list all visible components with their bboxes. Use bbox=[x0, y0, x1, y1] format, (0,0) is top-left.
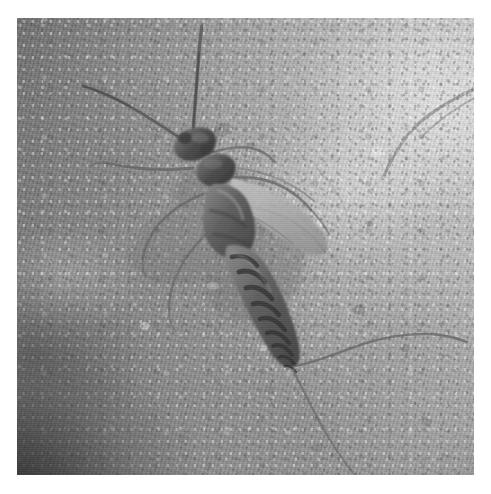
photograph bbox=[17, 18, 474, 475]
photo-frame bbox=[0, 0, 491, 494]
vignette-overlay bbox=[17, 18, 474, 475]
